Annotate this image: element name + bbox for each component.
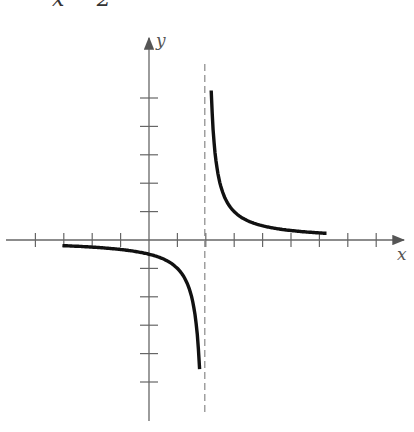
right-branch-curve <box>211 91 326 234</box>
y-axis-label: y <box>156 30 166 50</box>
curves <box>62 91 326 370</box>
x-axis-label: x <box>397 244 407 264</box>
function-graph <box>0 0 414 432</box>
axes <box>6 38 404 421</box>
left-branch-curve <box>62 246 199 370</box>
